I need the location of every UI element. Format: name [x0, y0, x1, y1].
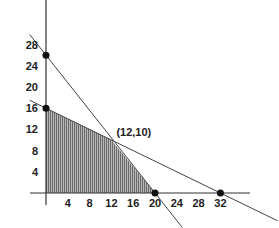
annotations: (12,10)	[116, 126, 151, 138]
x-tick-label: 8	[87, 197, 93, 209]
linear-programming-graph: 48121620242832481216202428 (12,10)	[0, 0, 279, 228]
y-tick-label: 28	[26, 39, 38, 51]
x-tick-label: 28	[192, 197, 204, 209]
y-tick-label: 4	[32, 166, 39, 178]
vertex-point	[43, 105, 50, 112]
vertex-label: (12,10)	[116, 126, 151, 138]
vertex-point	[152, 190, 159, 197]
x-tick-label: 32	[214, 197, 226, 209]
x-tick-label: 24	[171, 197, 184, 209]
feasible-region-fill	[46, 108, 155, 193]
x-tick-label: 20	[149, 197, 161, 209]
y-tick-label: 24	[26, 60, 39, 72]
y-tick-label: 8	[32, 145, 38, 157]
x-tick-label: 12	[105, 197, 117, 209]
vertex-point	[43, 52, 50, 59]
vertex-point	[217, 190, 224, 197]
y-tick-label: 12	[26, 123, 38, 135]
x-tick-label: 16	[127, 197, 139, 209]
feasible-region	[46, 108, 155, 193]
x-tick-label: 4	[65, 197, 72, 209]
y-tick-label: 16	[26, 102, 38, 114]
y-tick-label: 20	[26, 81, 38, 93]
